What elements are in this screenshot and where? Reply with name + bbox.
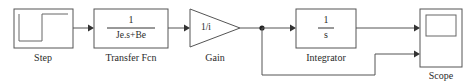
gain-block-body[interactable]: [190, 9, 240, 47]
transfer-fcn-denominator: Je.s+Be: [116, 30, 146, 40]
gain-block-label: Gain: [205, 52, 224, 63]
arrow-into-integrator: [290, 25, 296, 32]
arrow-into-scope-port1: [414, 25, 420, 32]
integrator-block-label: Integrator: [306, 52, 346, 63]
scope-block-label: Scope: [429, 70, 454, 81]
block-transfer-fcn[interactable]: 1 Je.s+Be Transfer Fcn: [94, 9, 190, 63]
arrow-into-transfer-fcn: [88, 25, 94, 32]
integrator-denominator: s: [324, 29, 328, 40]
transfer-fcn-numerator: 1: [129, 14, 134, 25]
block-gain[interactable]: 1/i Gain: [190, 9, 262, 63]
step-block-label: Step: [34, 52, 52, 63]
diagram-svg: Step 1 Je.s+Be Transfer Fcn 1/i Gain: [0, 0, 465, 84]
block-integrator[interactable]: 1 s Integrator: [296, 9, 420, 63]
block-scope[interactable]: Scope: [420, 9, 462, 81]
transfer-fcn-block-label: Transfer Fcn: [105, 52, 156, 63]
arrow-into-scope-port2: [414, 51, 420, 58]
step-block-body[interactable]: [14, 9, 73, 48]
integrator-numerator: 1: [324, 14, 329, 25]
block-diagram-canvas: Step 1 Je.s+Be Transfer Fcn 1/i Gain: [0, 0, 465, 84]
gain-value: 1/i: [201, 22, 211, 32]
block-step[interactable]: Step: [14, 9, 94, 63]
arrow-into-gain: [184, 25, 190, 32]
scope-screen-icon: [426, 15, 456, 36]
